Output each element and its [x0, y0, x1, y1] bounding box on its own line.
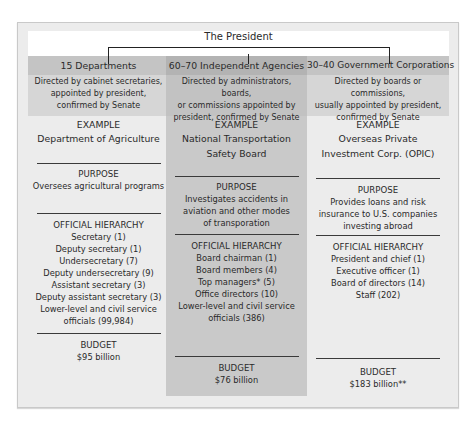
column-independent-agencies: 60–70 Independent Agencies Directed by a… [166, 56, 307, 396]
column-departments: 15 Departments Directed by cabinet secre… [28, 56, 169, 396]
connector-horizontal [108, 47, 390, 48]
hierarchy-item: Assistant secretary (3) [28, 279, 169, 291]
budget-value: $183 billion** [307, 378, 449, 390]
column-description: Directed by cabinet secretaries, appoint… [28, 75, 169, 116]
hierarchy-label: OFFICIAL HIERARCHY [28, 219, 169, 231]
budget-section: BUDGET $183 billion** [307, 366, 449, 390]
example-section: EXAMPLE National Transportation Safety B… [166, 118, 307, 161]
description-line: usually appointed by president, [307, 100, 449, 112]
divider [28, 163, 169, 164]
hierarchy-item: Undersecretary (7) [28, 255, 169, 267]
column-description: Directed by boards or commissions, usual… [307, 75, 449, 116]
hierarchy-item: Deputy undersecretary (9) [28, 267, 169, 279]
hierarchy-item: officials (386) [166, 312, 307, 324]
hierarchy-section: OFFICIAL HIERARCHY President and chief (… [307, 241, 449, 301]
example-value: National Transportation [166, 131, 307, 146]
budget-label: BUDGET [166, 362, 307, 374]
budget-value: $95 billion [28, 351, 169, 363]
budget-label: BUDGET [28, 339, 169, 351]
purpose-value: investing abroad [307, 220, 449, 232]
president-node: The President [28, 31, 449, 43]
divider [166, 176, 307, 177]
hierarchy-item: Lower-level and civil service [28, 303, 169, 315]
divider [307, 178, 449, 179]
connector-right [389, 47, 390, 64]
hierarchy-item: Office directors (10) [166, 288, 307, 300]
purpose-value: aviation and other modes [166, 205, 307, 217]
hierarchy-item: Staff (202) [307, 289, 449, 301]
connector-middle [248, 54, 249, 64]
purpose-section: PURPOSE Oversees agricultural programs [28, 168, 169, 192]
hierarchy-label: OFFICIAL HIERARCHY [307, 241, 449, 253]
example-section: EXAMPLE Department of Agriculture [28, 118, 169, 146]
budget-section: BUDGET $76 billion [166, 362, 307, 386]
hierarchy-item: Board members (4) [166, 264, 307, 276]
divider [307, 235, 449, 236]
divider [166, 234, 307, 235]
column-government-corporations: 30–40 Government Corporations Directed b… [307, 56, 449, 396]
example-label: EXAMPLE [307, 118, 449, 131]
president-label: The President [200, 31, 276, 42]
description-line: Directed by administrators, boards, [166, 76, 307, 100]
example-section: EXAMPLE Overseas Private Investment Corp… [307, 118, 449, 161]
example-value: Overseas Private [307, 131, 449, 146]
purpose-value: insurance to U.S. companies [307, 208, 449, 220]
purpose-label: PURPOSE [166, 181, 307, 193]
budget-section: BUDGET $95 billion [28, 339, 169, 363]
purpose-label: PURPOSE [307, 184, 449, 196]
president-band: The President [28, 31, 449, 56]
description-line: confirmed by Senate [28, 100, 169, 112]
hierarchy-item: Deputy secretary (1) [28, 243, 169, 255]
column-heading: 60–70 Independent Agencies [166, 56, 307, 75]
hierarchy-section: OFFICIAL HIERARCHY Secretary (1) Deputy … [28, 219, 169, 327]
hierarchy-item: Executive officer (1) [307, 265, 449, 277]
example-value: Department of Agriculture [28, 131, 169, 146]
purpose-section: PURPOSE Provides loans and risk insuranc… [307, 184, 449, 232]
column-heading: 30–40 Government Corporations [307, 56, 449, 75]
column-description: Directed by administrators, boards, or c… [166, 75, 307, 116]
hierarchy-section: OFFICIAL HIERARCHY Board chairman (1) Bo… [166, 240, 307, 324]
divider [307, 358, 449, 359]
hierarchy-item: Lower-level and civil service [166, 300, 307, 312]
purpose-value: of transporation [166, 217, 307, 229]
bureaucracy-diagram: The President 15 Departments Directed by… [17, 22, 459, 408]
example-value: Safety Board [166, 146, 307, 161]
example-label: EXAMPLE [166, 118, 307, 131]
column-heading: 15 Departments [28, 56, 169, 75]
purpose-value: Oversees agricultural programs [28, 180, 169, 192]
divider [166, 356, 307, 357]
divider [28, 333, 169, 334]
description-line: or commissions appointed by [166, 100, 307, 112]
hierarchy-item: President and chief (1) [307, 253, 449, 265]
hierarchy-item: officials (99,984) [28, 315, 169, 327]
purpose-label: PURPOSE [28, 168, 169, 180]
example-label: EXAMPLE [28, 118, 169, 131]
example-value: Investment Corp. (OPIC) [307, 146, 449, 161]
divider [28, 213, 169, 214]
description-line: appointed by president, [28, 88, 169, 100]
purpose-section: PURPOSE Investigates accidents in aviati… [166, 181, 307, 229]
purpose-value: Investigates accidents in [166, 193, 307, 205]
hierarchy-item: Deputy assistant secretary (3) [28, 291, 169, 303]
budget-value: $76 billion [166, 374, 307, 386]
hierarchy-item: Secretary (1) [28, 231, 169, 243]
hierarchy-item: Board chairman (1) [166, 252, 307, 264]
budget-label: BUDGET [307, 366, 449, 378]
description-line: Directed by boards or commissions, [307, 76, 449, 100]
hierarchy-item: Board of directors (14) [307, 277, 449, 289]
connector-left [108, 47, 109, 64]
purpose-value: Provides loans and risk [307, 196, 449, 208]
description-line: Directed by cabinet secretaries, [28, 76, 169, 88]
hierarchy-label: OFFICIAL HIERARCHY [166, 240, 307, 252]
hierarchy-item: Top managers* (5) [166, 276, 307, 288]
